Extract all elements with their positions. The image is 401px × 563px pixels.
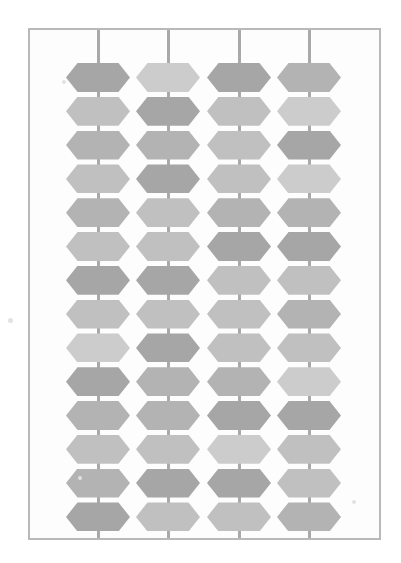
hexagon-r4-c1: [66, 164, 130, 193]
hexagon-r4-c4: [277, 164, 341, 193]
hex-column-1: [66, 30, 130, 538]
hexagon-r2-c4: [277, 97, 341, 126]
hex-column-3: [207, 30, 271, 538]
hexagon-r7-c3: [207, 266, 271, 295]
hexagon-r12-c4: [277, 435, 341, 464]
hexagon-r13-c2: [136, 469, 200, 498]
hexagon-r2-c3: [207, 97, 271, 126]
hexagon-r9-c1: [66, 333, 130, 362]
hexagon-r7-c4: [277, 266, 341, 295]
pattern-frame: [28, 28, 381, 540]
hexagon-r1-c4: [277, 63, 341, 92]
hexagon-r8-c4: [277, 300, 341, 329]
hexagon-r8-c2: [136, 300, 200, 329]
hexagon-r2-c2: [136, 97, 200, 126]
hexagon-r4-c2: [136, 164, 200, 193]
hexagon-r6-c2: [136, 232, 200, 261]
hexagon-r3-c2: [136, 131, 200, 160]
hexagon-r6-c4: [277, 232, 341, 261]
hexagon-r11-c3: [207, 401, 271, 430]
hexagon-r11-c4: [277, 401, 341, 430]
paper-speck-3: [352, 500, 356, 504]
hexagon-r1-c2: [136, 63, 200, 92]
hexagon-r14-c1: [66, 502, 130, 531]
hexagon-r14-c3: [207, 502, 271, 531]
hexagon-r10-c3: [207, 367, 271, 396]
hexagon-r9-c4: [277, 333, 341, 362]
hexagon-r5-c2: [136, 198, 200, 227]
hexagon-r5-c4: [277, 198, 341, 227]
hexagon-r6-c1: [66, 232, 130, 261]
pattern-canvas: [0, 0, 401, 563]
hexagon-r7-c1: [66, 266, 130, 295]
hexagon-r2-c1: [66, 97, 130, 126]
hexagon-r12-c1: [66, 435, 130, 464]
paper-speck-2: [62, 80, 66, 84]
hexagon-r1-c3: [207, 63, 271, 92]
hexagon-r13-c3: [207, 469, 271, 498]
hexagon-r10-c2: [136, 367, 200, 396]
hexagon-r14-c2: [136, 502, 200, 531]
hexagon-r1-c1: [66, 63, 130, 92]
hexagon-r5-c1: [66, 198, 130, 227]
hexagon-r13-c1: [66, 469, 130, 498]
hexagon-r7-c2: [136, 266, 200, 295]
hexagon-r10-c4: [277, 367, 341, 396]
hexagon-r9-c2: [136, 333, 200, 362]
paper-speck-1: [8, 318, 13, 323]
hexagon-r10-c1: [66, 367, 130, 396]
hexagon-r3-c4: [277, 131, 341, 160]
hexagon-r5-c3: [207, 198, 271, 227]
hexagon-r14-c4: [277, 502, 341, 531]
hexagon-r11-c2: [136, 401, 200, 430]
hexagon-r13-c4: [277, 469, 341, 498]
hexagon-r3-c1: [66, 131, 130, 160]
hex-column-2: [136, 30, 200, 538]
hex-column-4: [277, 30, 341, 538]
hexagon-r9-c3: [207, 333, 271, 362]
hexagon-r3-c3: [207, 131, 271, 160]
paper-speck-4: [78, 476, 82, 480]
hexagon-r8-c3: [207, 300, 271, 329]
hexagon-r11-c1: [66, 401, 130, 430]
hexagon-r12-c2: [136, 435, 200, 464]
hexagon-r12-c3: [207, 435, 271, 464]
hexagon-r4-c3: [207, 164, 271, 193]
hexagon-r8-c1: [66, 300, 130, 329]
hexagon-r6-c3: [207, 232, 271, 261]
